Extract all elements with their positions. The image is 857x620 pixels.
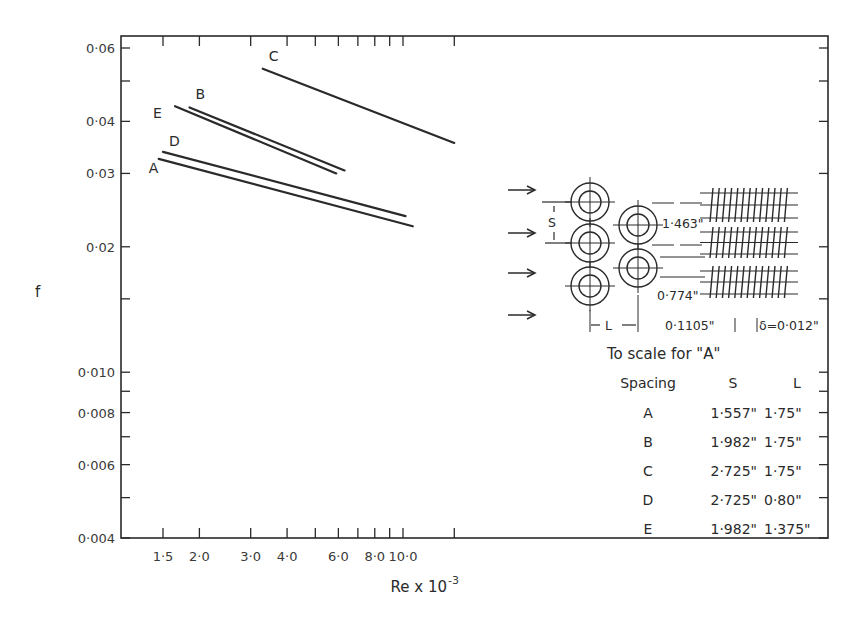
fin-spacing-label: 0·1105" — [665, 318, 715, 333]
x-tick-label: 4·0 — [277, 549, 298, 564]
y-tick-label: 0·03 — [86, 166, 115, 181]
legend-row: C2·725"1·75" — [643, 463, 802, 479]
legend-s: 1·557" — [710, 405, 757, 421]
series-label-e: E — [153, 105, 162, 121]
legend-l: 1·75" — [764, 405, 802, 421]
series-line-c — [263, 69, 455, 143]
legend-s: 2·725" — [710, 463, 757, 479]
inset-caption: To scale for "A" — [606, 345, 720, 363]
x-tick-label: 2·0 — [189, 549, 210, 564]
series-line-a — [159, 159, 413, 226]
x-tick-label: 1·5 — [153, 549, 174, 564]
legend-s: 2·725" — [710, 492, 757, 508]
s-dimension-label: S — [548, 215, 556, 230]
x-tick-label: 6·0 — [328, 549, 349, 564]
right-axis-ticks — [819, 48, 828, 538]
x-axis-title: Re x 10 — [391, 578, 447, 596]
legend-row: E1·982"1·375" — [644, 521, 811, 537]
y-tick-label: 0·010 — [78, 365, 115, 380]
legend-header: S — [729, 375, 738, 391]
x-axis-title-exponent: -3 — [448, 574, 459, 587]
y-tick-label: 0·006 — [78, 458, 115, 473]
series-label-c: C — [269, 48, 279, 64]
spacing-legend-table: SpacingSLA1·557"1·75"B1·982"1·75"C2·725"… — [620, 375, 810, 537]
legend-row: A1·557"1·75" — [643, 405, 801, 421]
y-axis: 0·060·040·030·020·0100·0080·0060·004 — [78, 41, 130, 546]
legend-spacing: A — [643, 405, 653, 421]
y-tick-label: 0·004 — [78, 531, 115, 546]
legend-l: 1·375" — [764, 521, 811, 537]
legend-s: 1·982" — [710, 521, 757, 537]
y-axis-title: f — [35, 283, 41, 301]
series-line-b — [190, 107, 345, 170]
legend-header: L — [793, 375, 801, 391]
legend-spacing: E — [644, 521, 653, 537]
legend-l: 0·80" — [764, 492, 802, 508]
legend-header: Spacing — [620, 375, 676, 391]
legend-row: B1·982"1·75" — [643, 434, 801, 450]
legend-l: 1·75" — [764, 463, 802, 479]
legend-row: D2·725"0·80" — [643, 492, 802, 508]
legend-spacing: B — [643, 434, 653, 450]
fin-pitch-label: 1·463" — [662, 216, 704, 231]
data-series: ADEBC — [149, 48, 455, 227]
legend-spacing: D — [643, 492, 654, 508]
fin-geometry-inset: SL1·463"0·774"0·1105"δ=0·012"To scale fo… — [508, 177, 819, 363]
x-tick-label: 3·0 — [240, 549, 261, 564]
series-line-e — [175, 106, 336, 173]
chart-canvas: 0·060·040·030·020·0100·0080·0060·004 1·5… — [0, 0, 857, 620]
y-tick-label: 0·02 — [86, 240, 115, 255]
series-line-d — [163, 152, 406, 216]
legend-spacing: C — [643, 463, 653, 479]
l-dimension-label: L — [605, 318, 612, 333]
legend-s: 1·982" — [710, 434, 757, 450]
legend-l: 1·75" — [764, 434, 802, 450]
y-tick-label: 0·06 — [86, 41, 115, 56]
series-label-b: B — [196, 86, 206, 102]
series-label-a: A — [149, 160, 159, 176]
series-label-d: D — [169, 133, 180, 149]
x-tick-label: 8·0 — [364, 549, 385, 564]
fin-height-label: 0·774" — [657, 288, 699, 303]
x-tick-label: 10·0 — [389, 549, 418, 564]
y-tick-label: 0·04 — [86, 114, 115, 129]
fin-thickness-label: δ=0·012" — [759, 318, 819, 333]
y-tick-label: 0·008 — [78, 406, 115, 421]
